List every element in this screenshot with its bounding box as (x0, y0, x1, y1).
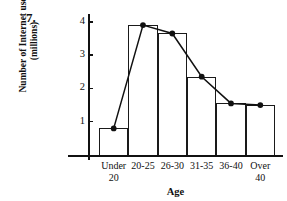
figure-container: 7. Number of Internet users (millions) 1… (0, 0, 287, 201)
frequency-polygon (68, 12, 283, 160)
data-point-marker (199, 74, 205, 80)
x-axis-tick-label-line: 40 (231, 172, 287, 184)
x-axis-tick-label-line: 20 (84, 172, 143, 184)
y-axis-title-line2: (millions) (29, 0, 40, 101)
x-axis-tick-label-line: Over (231, 160, 287, 172)
x-axis-tick-label: Over40 (231, 160, 287, 183)
polygon-line (114, 25, 261, 128)
data-point-marker (111, 126, 117, 132)
y-axis-title: Number of Internet users (millions) (18, 0, 40, 101)
y-axis-title-line1: Number of Internet users (18, 0, 28, 93)
data-point-marker (169, 31, 175, 37)
data-point-marker (140, 22, 146, 28)
plot-area: 1234 (68, 12, 283, 160)
data-point-marker (257, 102, 263, 108)
x-axis-title: Age (68, 186, 283, 197)
data-point-marker (228, 101, 234, 107)
